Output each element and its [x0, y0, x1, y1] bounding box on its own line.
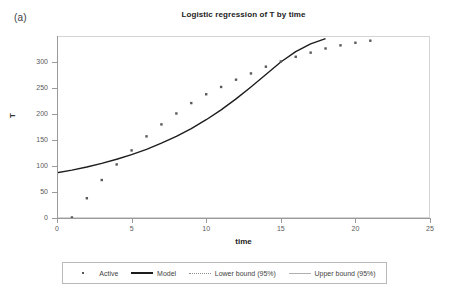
- data-point-active: [265, 65, 267, 67]
- legend-swatch-dotted-icon: [189, 269, 211, 277]
- data-point-active: [339, 44, 341, 46]
- y-tick-label: 50: [18, 188, 48, 195]
- legend-label: Model: [157, 270, 176, 277]
- x-tick-mark: [430, 219, 431, 223]
- x-tick-label: 10: [194, 225, 218, 232]
- data-point-active: [235, 78, 237, 80]
- data-point-active: [250, 72, 252, 74]
- data-point-active: [190, 102, 192, 104]
- figure-container: (a) Logistic regression of T by time 050…: [0, 0, 451, 299]
- legend-label: Upper bound (95%): [315, 270, 376, 277]
- y-tick-label: 100: [18, 162, 48, 169]
- legend-item[interactable]: Upper bound (95%): [289, 269, 376, 277]
- x-tick-mark: [355, 219, 356, 223]
- legend-item[interactable]: Active: [73, 269, 118, 277]
- data-point-active: [130, 149, 132, 151]
- x-tick-label: 20: [343, 225, 367, 232]
- x-tick-label: 15: [269, 225, 293, 232]
- panel-label: (a): [14, 12, 27, 23]
- series-model: [57, 39, 326, 173]
- y-tick-label: 250: [18, 84, 48, 91]
- data-point-active: [324, 47, 326, 49]
- data-point-active: [115, 163, 117, 165]
- data-point-active: [101, 179, 103, 181]
- chart-title: Logistic regression of T by time: [57, 10, 430, 19]
- x-tick-label: 0: [45, 225, 69, 232]
- x-tick-label: 5: [120, 225, 144, 232]
- y-tick-mark: [52, 140, 57, 141]
- model-curve: [57, 39, 326, 173]
- data-point-active: [220, 86, 222, 88]
- legend-item[interactable]: Lower bound (95%): [189, 269, 276, 277]
- y-tick-mark: [52, 62, 57, 63]
- y-axis-title: T: [8, 113, 17, 118]
- chart-legend: ActiveModelLower bound (95%)Upper bound …: [62, 262, 387, 284]
- x-tick-mark: [57, 219, 58, 223]
- data-point-active: [86, 197, 88, 199]
- legend-swatch-solid-thick-icon: [131, 269, 153, 277]
- legend-label: Active: [99, 270, 118, 277]
- x-tick-mark: [281, 219, 282, 223]
- data-point-active: [369, 39, 371, 41]
- legend-label: Lower bound (95%): [215, 270, 276, 277]
- y-tick-label: 0: [18, 214, 48, 221]
- series-active: [71, 39, 372, 218]
- y-tick-mark: [52, 114, 57, 115]
- x-tick-mark: [132, 219, 133, 223]
- data-point-active: [160, 123, 162, 125]
- legend-swatch-solid-thin-icon: [289, 269, 311, 277]
- y-tick-label: 150: [18, 136, 48, 143]
- y-tick-label: 300: [18, 58, 48, 65]
- y-axis-line: [57, 36, 58, 219]
- data-point-active: [295, 56, 297, 58]
- x-tick-label: 25: [418, 225, 442, 232]
- y-tick-mark: [52, 192, 57, 193]
- y-tick-mark: [52, 166, 57, 167]
- x-axis-line: [57, 218, 431, 219]
- y-tick-label: 200: [18, 110, 48, 117]
- data-point-active: [354, 42, 356, 44]
- legend-swatch-marker-icon: [73, 269, 95, 277]
- plot-canvas: [57, 36, 430, 218]
- x-axis-title: time: [57, 237, 430, 246]
- data-point-active: [280, 60, 282, 62]
- y-tick-mark: [52, 88, 57, 89]
- data-point-active: [175, 112, 177, 114]
- x-tick-mark: [206, 219, 207, 223]
- data-point-active: [205, 93, 207, 95]
- legend-item[interactable]: Model: [131, 269, 176, 277]
- data-point-active: [145, 135, 147, 137]
- data-point-active: [309, 51, 311, 53]
